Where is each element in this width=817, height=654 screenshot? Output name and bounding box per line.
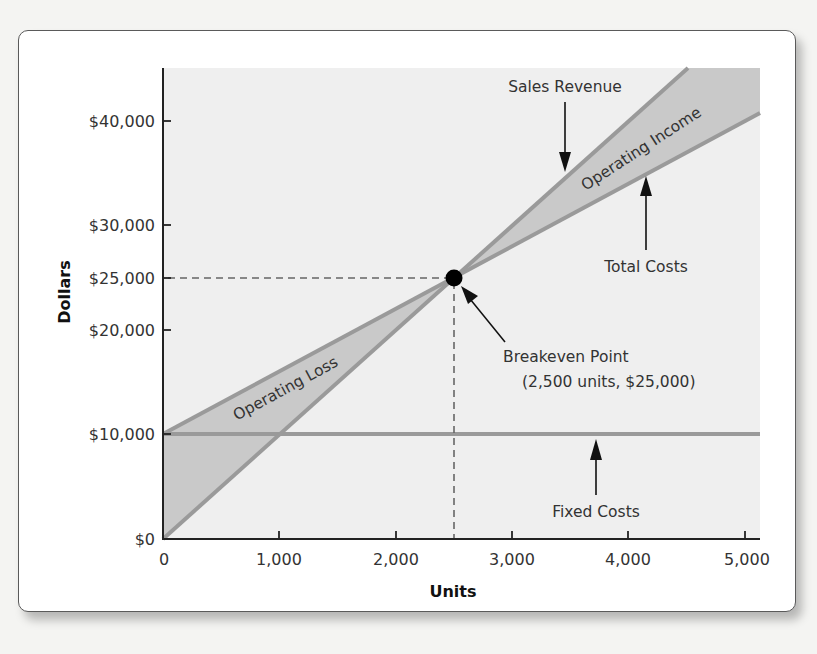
x-tick-2000: 2,000 <box>373 550 419 569</box>
sales-revenue-label: Sales Revenue <box>508 78 622 96</box>
total-costs-label: Total Costs <box>603 258 688 276</box>
breakeven-point <box>446 270 463 287</box>
y-tick-25000: $25,000 <box>89 269 155 288</box>
y-tick-40000: $40,000 <box>89 112 155 131</box>
x-axis-title: Units <box>429 582 476 601</box>
x-tick-4000: 4,000 <box>605 550 651 569</box>
breakeven-coordinates: (2,500 units, $25,000) <box>522 373 695 391</box>
x-tick-3000: 3,000 <box>489 550 535 569</box>
y-tick-0: $0 <box>135 530 155 549</box>
breakeven-label: Breakeven Point <box>503 348 629 366</box>
x-tick-0: 0 <box>159 550 169 569</box>
fixed-costs-label: Fixed Costs <box>552 503 640 521</box>
y-axis-title: Dollars <box>55 260 74 323</box>
breakeven-chart: $40,000 $30,000 $25,000 $20,000 $10,000 … <box>0 0 817 654</box>
y-tick-30000: $30,000 <box>89 216 155 235</box>
x-tick-5000: 5,000 <box>724 550 770 569</box>
x-tick-1000: 1,000 <box>256 550 302 569</box>
y-tick-20000: $20,000 <box>89 321 155 340</box>
y-tick-10000: $10,000 <box>89 425 155 444</box>
